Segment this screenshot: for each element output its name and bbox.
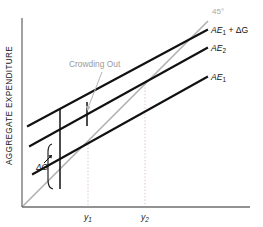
series-label-ae1-plus-delta-g-text: AE — [210, 25, 223, 35]
series-label-ae1-text: AE — [210, 72, 223, 82]
y-axis-title: AGGREGATE EXPENDITURE — [5, 46, 14, 165]
crowding-out-label: Crowding Out — [69, 59, 121, 69]
series-label-ae2: AE2 — [210, 43, 226, 54]
series-label-ae2-text: AE — [210, 43, 223, 53]
series-label-ae1: AE1 — [210, 72, 226, 83]
series-label-ae1-plus-delta-g: AE1 + ΔG — [210, 25, 249, 36]
aggregate-expenditure-chart: AGGREGATE EXPENDITURE 45° AE1 + ΔG AE2 A… — [0, 0, 263, 227]
x-tick-label-y2: y2 — [140, 212, 149, 223]
delta-g-label: ΔG — [35, 162, 49, 172]
crowding-out-leader-line — [88, 72, 102, 108]
delta-g-brace — [48, 144, 53, 189]
x-tick-label-y2-sub: 2 — [144, 216, 149, 223]
x-tick-label-y1-sub: 1 — [88, 216, 92, 223]
series-label-ae1-plus-delta-g-suffix: + ΔG — [226, 25, 249, 35]
series-label-ae1-sub: 1 — [222, 76, 226, 83]
series-label-ae2-sub: 2 — [222, 47, 226, 54]
x-tick-label-y1: y1 — [83, 212, 92, 223]
forty-five-degree-label: 45° — [212, 7, 224, 16]
chart-canvas: AGGREGATE EXPENDITURE 45° AE1 + ΔG AE2 A… — [0, 0, 263, 227]
line-ae1 — [33, 77, 207, 174]
